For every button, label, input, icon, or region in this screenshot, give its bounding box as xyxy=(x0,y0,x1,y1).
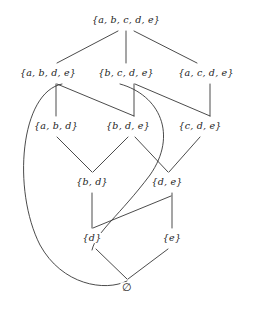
edge-bcde-d xyxy=(92,84,164,250)
edge-abcde-abde xyxy=(57,31,118,63)
node-label-bd: {b, d} xyxy=(75,177,110,187)
edge-d-empty xyxy=(96,249,127,279)
edge-de-d xyxy=(93,196,171,228)
node-label-bde: {b, d, e} xyxy=(105,121,152,131)
hasse-edges-layer xyxy=(0,0,253,311)
node-label-e: {e} xyxy=(161,233,182,243)
node-label-de: {d, e} xyxy=(150,177,184,187)
node-label-bcde: {b, c, d, e} xyxy=(97,68,156,78)
node-label-abde: {a, b, d, e} xyxy=(18,68,77,78)
edge-abde-bde xyxy=(57,84,134,116)
hasse-diagram: {a, b, c, d, e}{a, b, d, e}{b, c, d, e}{… xyxy=(0,0,253,311)
edge-cde-de xyxy=(169,137,200,172)
node-label-d: {d} xyxy=(81,233,103,243)
edge-bcde-cde xyxy=(135,84,210,116)
node-label-abd: {a, b, d} xyxy=(33,121,80,131)
edge-bde-bd xyxy=(93,137,128,172)
node-label-cde: {c, d, e} xyxy=(177,121,223,131)
node-label-abcde: {a, b, c, d, e} xyxy=(90,15,161,25)
node-label-empty: ∅ xyxy=(120,282,133,294)
edge-e-empty xyxy=(128,249,168,279)
node-label-acde: {a, c, d, e} xyxy=(177,68,235,78)
edge-abcde-acde xyxy=(134,31,197,63)
edge-abd-bd xyxy=(57,137,92,172)
